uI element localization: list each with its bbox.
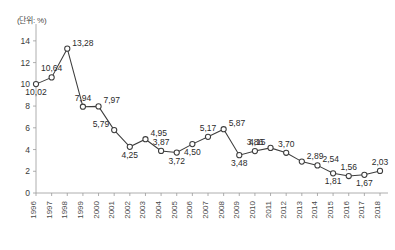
data-point [205,134,210,139]
data-point-label: 1,56 [340,162,357,172]
data-point [377,168,382,173]
data-point-label: 3,48 [231,158,248,168]
x-tick-label: 1999 [76,200,85,218]
data-point [80,104,85,109]
x-tick-label: 2003 [138,200,147,218]
y-tick-label: 4 [25,145,30,155]
data-point-label: 4,25 [122,150,139,160]
data-point-label: 5,17 [200,123,217,133]
x-tick-label: 2005 [170,200,179,218]
data-point [221,127,226,132]
x-tick-label: 2013 [295,200,304,218]
data-point-label: 1,81 [325,176,342,186]
x-tick-label: 2004 [154,200,163,218]
x-tick-label: 2012 [279,200,288,218]
data-point-label: 5,79 [93,119,110,129]
data-point [237,153,242,158]
data-point-label: 5,87 [229,118,246,128]
data-point [362,172,367,177]
data-point-label: 7,94 [75,93,92,103]
data-point-label: 3,72 [168,156,185,166]
y-tick-label: 2 [25,166,30,176]
line-chart: (단위: %) 02468101214199619971998199920002… [0,0,395,250]
data-point-label: 7,97 [104,95,121,105]
x-tick-label: 1996 [29,200,38,218]
data-point [112,127,117,132]
data-point [96,104,101,109]
data-point [49,75,54,80]
data-point [330,171,335,176]
data-point-label: 2,03 [372,157,389,167]
data-point [190,142,195,147]
data-point [143,137,148,142]
x-tick-label: 1997 [45,200,54,218]
x-tick-label: 2018 [373,200,382,218]
data-point [65,46,70,51]
x-tick-label: 2009 [232,200,241,218]
data-point-label: 4,50 [184,147,201,157]
x-tick-label: 2017 [357,200,366,218]
y-tick-label: 8 [25,101,30,111]
data-point [252,148,257,153]
data-point-label: 13,28 [72,38,94,48]
y-tick-label: 6 [25,123,30,133]
data-point-label: 1,67 [356,178,373,188]
x-tick-label: 2011 [264,200,273,218]
data-point [174,150,179,155]
data-point [284,150,289,155]
y-tick-label: 14 [21,36,31,46]
data-point [299,159,304,164]
data-point-label: 2,54 [322,154,339,164]
y-tick-label: 12 [21,58,31,68]
data-point-label: 4,15 [249,137,266,147]
data-point [158,148,163,153]
x-tick-label: 2006 [185,200,194,218]
chart-canvas: 0246810121419961997199819992000200120022… [0,0,395,250]
x-tick-label: 1998 [60,200,69,218]
data-point [127,144,132,149]
x-tick-label: 2001 [107,200,116,218]
data-point [268,145,273,150]
x-tick-label: 2002 [123,200,132,218]
data-point-label: 10,02 [25,87,47,97]
data-point-label: 3,70 [278,139,295,149]
data-point [315,163,320,168]
x-tick-label: 2007 [201,200,210,218]
y-tick-label: 0 [25,188,30,198]
data-point [33,82,38,87]
x-tick-label: 2010 [248,200,257,218]
data-point [346,173,351,178]
x-tick-label: 2000 [92,200,101,218]
x-tick-label: 2014 [310,200,319,218]
data-point-label: 2,89 [307,151,324,161]
x-tick-label: 2015 [326,200,335,218]
x-tick-label: 2008 [217,200,226,218]
data-point-label: 10,64 [41,63,63,73]
data-point-label: 3,87 [153,137,170,147]
x-tick-label: 2016 [342,200,351,218]
